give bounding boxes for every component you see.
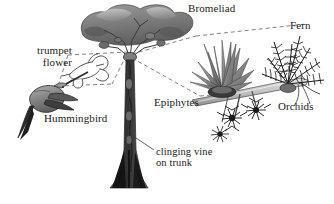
label-hummingbird: Hummingbird <box>44 113 107 125</box>
label-fern: Fern <box>290 20 311 32</box>
canopy <box>81 5 193 45</box>
orchid-clusters <box>211 98 271 142</box>
label-trumpet-flower: trumpet flower <box>10 45 72 68</box>
label-bromeliad: Bromeliad <box>188 3 235 15</box>
orchid-cluster <box>217 106 247 131</box>
rainforest-canopy-diagram: trumpet flower Hummingbird Bromeliad Fer… <box>0 0 334 204</box>
label-orchids: Orchids <box>278 101 314 113</box>
label-clinging-vine: clinging vine on trunk <box>156 146 212 168</box>
label-epiphytes: Epiphytes <box>154 97 199 109</box>
orchid-cluster <box>241 98 271 120</box>
orchid-cluster <box>211 126 229 142</box>
bromeliad-plant <box>190 40 254 98</box>
